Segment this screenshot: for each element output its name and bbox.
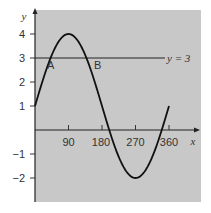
y-ticks <box>30 34 35 178</box>
x-tick-360: 360 <box>160 136 178 148</box>
y-tick-2: 2 <box>19 76 25 88</box>
x-tick-90: 90 <box>62 136 74 148</box>
y-tick-4: 4 <box>19 28 25 40</box>
y-axis-label: y <box>21 10 27 22</box>
point-b-label: B <box>94 59 101 71</box>
y-tick-neg2: −2 <box>12 172 25 184</box>
y-tick-3: 3 <box>19 52 25 64</box>
x-axis-label: x <box>190 135 196 147</box>
point-a-label: A <box>47 59 55 71</box>
y-tick-neg1: −1 <box>12 148 25 160</box>
y-tick-1: 1 <box>19 100 25 112</box>
sine-graph: y = 3 4 3 2 1 −1 −2 y 90 180 270 360 x A… <box>0 0 211 213</box>
line-label: y = 3 <box>166 52 191 64</box>
x-tick-180: 180 <box>92 136 110 148</box>
x-tick-270: 270 <box>126 136 144 148</box>
